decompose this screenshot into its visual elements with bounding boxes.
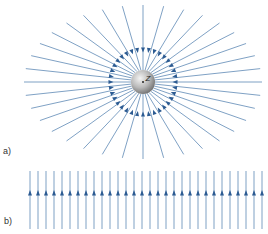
arrowhead-icon (92, 190, 96, 196)
field-lines-figure: Z (0, 0, 268, 234)
parallel-field-lines (30, 171, 262, 229)
arrowhead-icon (76, 190, 80, 196)
arrowhead-icon (44, 190, 48, 196)
arrowhead-icon (236, 190, 240, 196)
arrowhead-icon (109, 86, 114, 90)
arrowhead-icon (109, 74, 114, 78)
arrowhead-icon (172, 74, 177, 78)
arrowhead-icon (153, 49, 157, 54)
arrowhead-icon (129, 49, 133, 54)
radial-field-line (153, 44, 246, 77)
arrowhead-icon (172, 190, 176, 196)
arrowhead-icon (156, 190, 160, 196)
arrowhead-icon (108, 190, 112, 196)
arrowhead-icon (84, 190, 88, 196)
arrowhead-icon (204, 190, 208, 196)
arrowhead-icon (228, 190, 232, 196)
radial-field-line (40, 44, 133, 77)
arrowhead-icon (148, 190, 152, 196)
arrowhead-icon (36, 190, 40, 196)
parallel-arrowheads (28, 190, 264, 196)
radial-field-line (153, 88, 246, 121)
center-dot (142, 81, 144, 83)
arrowhead-icon (173, 80, 178, 84)
arrowhead-icon (212, 190, 216, 196)
arrowhead-icon (220, 190, 224, 196)
radial-field-line (147, 10, 184, 71)
arrowhead-icon (60, 190, 64, 196)
arrowhead-icon (124, 190, 128, 196)
arrowhead-icon (172, 86, 177, 90)
arrowhead-icon (252, 190, 256, 196)
radial-field-line (52, 90, 134, 132)
radial-field-line (102, 93, 139, 154)
radial-field-line (40, 88, 133, 121)
arrowhead-icon (153, 110, 157, 115)
radial-field-line (145, 6, 164, 70)
radial-field-line (122, 94, 141, 158)
arrowhead-icon (100, 190, 104, 196)
arrowhead-icon (116, 190, 120, 196)
radial-field-line (147, 93, 184, 154)
arrowhead-icon (28, 190, 32, 196)
arrowhead-icon (132, 190, 136, 196)
arrowhead-icon (141, 48, 145, 53)
arrowhead-icon (68, 190, 72, 196)
panel-a-label: a) (3, 146, 11, 156)
arrowhead-icon (109, 80, 114, 84)
arrowhead-icon (52, 190, 56, 196)
arrowhead-icon (129, 110, 133, 115)
radial-field-line (152, 90, 234, 132)
radial-field-line (102, 10, 139, 71)
arrowhead-icon (140, 190, 144, 196)
arrowhead-icon (164, 190, 168, 196)
arrowhead-icon (141, 112, 145, 117)
arrowhead-icon (244, 190, 248, 196)
radial-field-line (122, 6, 141, 70)
arrowhead-icon (188, 190, 192, 196)
charged-sphere: Z (131, 70, 155, 94)
arrowhead-icon (196, 190, 200, 196)
radial-field-line (152, 33, 234, 75)
arrowhead-icon (180, 190, 184, 196)
arrowhead-icon (260, 190, 264, 196)
radial-field-line (145, 94, 164, 158)
radial-field-line (52, 33, 134, 75)
panel-b-label: b) (4, 216, 12, 226)
